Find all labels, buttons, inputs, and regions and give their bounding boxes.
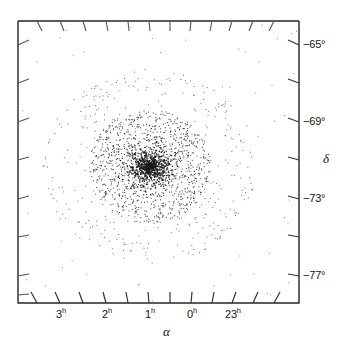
x-axis-ticks-top bbox=[37, 21, 274, 31]
x-tick-label-3h: 3h bbox=[56, 309, 66, 320]
y-tick-label-minus77: −77° bbox=[303, 270, 325, 281]
x-axis-ticks-bottom bbox=[31, 292, 280, 303]
y-axis-ticks-left bbox=[18, 40, 29, 295]
y-tick-label-minus69: −69° bbox=[303, 116, 325, 127]
scatter-points bbox=[22, 25, 297, 302]
plot-canvas bbox=[0, 0, 345, 346]
y-tick-label-minus65: −65° bbox=[303, 39, 325, 50]
x-tick-label-23h: 23h bbox=[225, 309, 241, 320]
x-tick-label-0h: 0h bbox=[187, 309, 197, 320]
y-tick-label-minus73: −73° bbox=[303, 193, 325, 204]
y-axis-ticks-right bbox=[288, 40, 299, 276]
y-axis-title: δ bbox=[323, 152, 329, 165]
x-tick-label-1h: 1h bbox=[145, 309, 155, 320]
x-tick-label-2h: 2h bbox=[102, 309, 112, 320]
x-axis-title: α bbox=[163, 325, 170, 338]
scatter-plot-figure: 3h 2h 1h 0h 23h −65° −69° −73° −77° α δ bbox=[0, 0, 345, 346]
